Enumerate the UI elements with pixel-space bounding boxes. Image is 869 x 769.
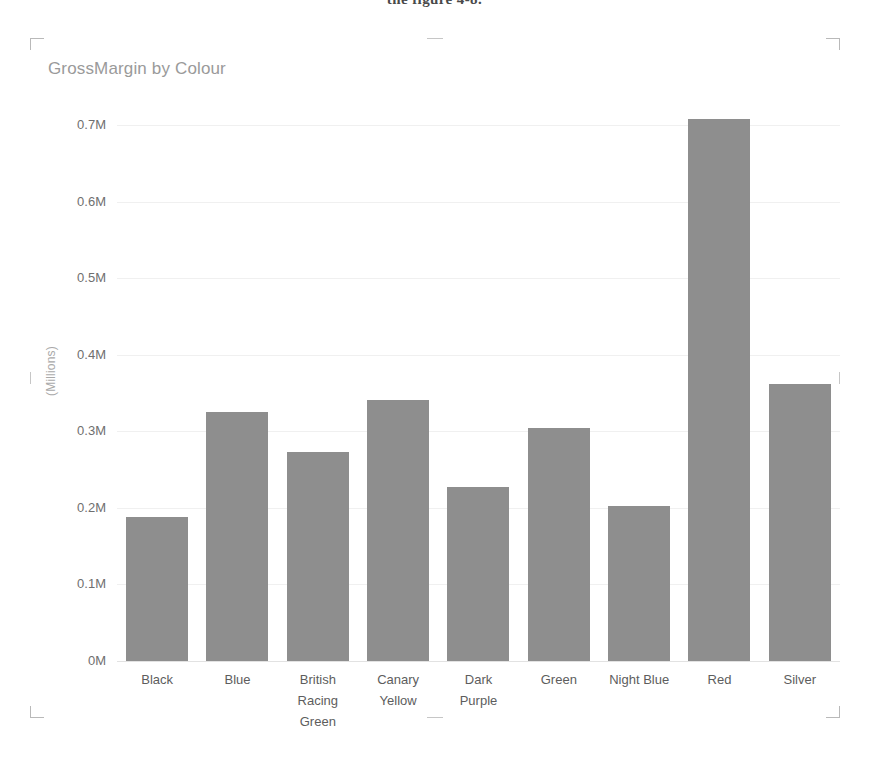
- x-axis-tick-label-line: Green: [519, 669, 599, 690]
- x-axis-tick-label-line: Green: [278, 711, 358, 732]
- bar[interactable]: [126, 517, 188, 661]
- x-axis-tick-label-line: Canary: [358, 669, 438, 690]
- bar[interactable]: [688, 119, 750, 661]
- bar[interactable]: [447, 487, 509, 661]
- bar-slot: [117, 116, 197, 661]
- y-axis-tick-label: 0.1M: [48, 576, 106, 591]
- x-axis-tick-label-line: Purple: [438, 690, 518, 711]
- x-axis-tick-label: Night Blue: [599, 669, 679, 690]
- bar[interactable]: [287, 452, 349, 661]
- bar-slot: [278, 116, 358, 661]
- x-axis-tick-label-line: Night Blue: [599, 669, 679, 690]
- x-axis-tick-label: DarkPurple: [438, 669, 518, 711]
- x-axis-tick-label: Black: [117, 669, 197, 690]
- x-axis-tick-label: BritishRacingGreen: [278, 669, 358, 732]
- x-axis-tick-label-line: Blue: [197, 669, 277, 690]
- bar[interactable]: [528, 428, 590, 661]
- bar-slot: [679, 116, 759, 661]
- x-axis-tick-label-line: Racing: [278, 690, 358, 711]
- x-axis-tick-label: Green: [519, 669, 599, 690]
- y-axis-tick-label: 0.5M: [48, 270, 106, 285]
- x-axis-tick-label-line: Dark: [438, 669, 518, 690]
- bar-slot: [519, 116, 599, 661]
- y-axis-tick-label: 0.6M: [48, 194, 106, 209]
- x-axis-tick-label: Silver: [760, 669, 840, 690]
- y-axis-tick-label: 0M: [48, 653, 106, 668]
- x-axis-tick-label: Blue: [197, 669, 277, 690]
- y-axis-tick-label: 0.2M: [48, 500, 106, 515]
- bar-slot: [760, 116, 840, 661]
- bar[interactable]: [769, 384, 831, 661]
- bar[interactable]: [206, 412, 268, 661]
- bar-chart-plot-area: 0.7M0.6M0.5M0.4M0.3M0.2M0.1M0M (Millions…: [0, 0, 869, 769]
- bar-slot: [358, 116, 438, 661]
- bar-slot: [599, 116, 679, 661]
- x-axis-tick-label-line: Yellow: [358, 690, 438, 711]
- bar-slot: [438, 116, 518, 661]
- x-axis-tick-label: CanaryYellow: [358, 669, 438, 711]
- x-axis-tick-label-line: Silver: [760, 669, 840, 690]
- bar[interactable]: [367, 400, 429, 661]
- x-axis-tick-label-line: Red: [679, 669, 759, 690]
- x-axis-tick-label: Red: [679, 669, 759, 690]
- bar-slot: [197, 116, 277, 661]
- y-axis-tick-label: 0.3M: [48, 423, 106, 438]
- y-axis-title: (Millions): [44, 346, 58, 396]
- x-axis-tick-label-line: British: [278, 669, 358, 690]
- bar[interactable]: [608, 506, 670, 661]
- bar-series: BlackBlueBritishRacingGreenCanaryYellowD…: [117, 0, 840, 769]
- x-axis-tick-label-line: Black: [117, 669, 197, 690]
- y-axis-tick-label: 0.7M: [48, 117, 106, 132]
